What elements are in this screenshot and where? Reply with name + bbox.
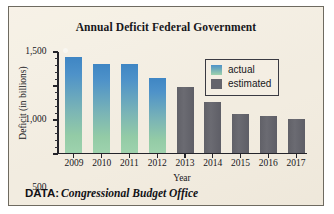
bar-2011 xyxy=(121,64,138,152)
y-minor-tick xyxy=(55,99,58,100)
bar-2016 xyxy=(260,116,277,152)
chart-title: Annual Deficit Federal Government xyxy=(9,21,323,33)
chart-screenshot: Annual Deficit Federal Government Defici… xyxy=(0,0,334,214)
figure-frame: Annual Deficit Federal Government Defici… xyxy=(8,6,324,206)
y-tick-1000: 1,000 xyxy=(53,85,58,87)
x-tick-label-2010: 2010 xyxy=(92,158,111,168)
chart-legend: actual estimated xyxy=(205,59,279,96)
y-tick-label-1500: 1,500 xyxy=(25,46,46,56)
data-source-label: DATA: xyxy=(25,187,59,199)
y-minor-tick xyxy=(55,72,58,73)
y-minor-tick xyxy=(55,106,58,107)
y-minor-tick xyxy=(55,133,58,134)
legend-label-estimated: estimated xyxy=(228,79,271,89)
y-minor-tick xyxy=(55,58,58,59)
legend-item-estimated: estimated xyxy=(211,77,271,91)
y-tick-label-1000: 1,000 xyxy=(25,114,46,124)
x-axis-line xyxy=(57,153,307,155)
x-tick-label-2013: 2013 xyxy=(176,158,195,168)
bar-2013 xyxy=(177,87,194,152)
legend-swatch-actual-icon xyxy=(211,65,222,75)
y-minor-tick xyxy=(55,92,58,93)
y-tick-500: 500 xyxy=(53,119,58,121)
x-tick-label-2009: 2009 xyxy=(64,158,83,168)
y-tick-1500: 1,500 xyxy=(53,51,58,53)
x-tick-label-2011: 2011 xyxy=(120,158,139,168)
data-source-caption: DATA:Congressional Budget Office xyxy=(25,187,198,199)
y-axis-title: Deficit (in billions) xyxy=(18,53,28,153)
legend-label-actual: actual xyxy=(228,65,255,75)
x-tick-label-2016: 2016 xyxy=(259,158,278,168)
bar-2014 xyxy=(204,102,221,152)
bar-2015 xyxy=(232,114,249,153)
x-tick-label-2015: 2015 xyxy=(231,158,250,168)
x-tick-label-2017: 2017 xyxy=(287,158,306,168)
bar-2012 xyxy=(149,78,166,152)
legend-item-actual: actual xyxy=(211,63,271,77)
y-axis-line xyxy=(57,52,59,154)
y-minor-tick xyxy=(55,79,58,80)
y-minor-tick xyxy=(55,113,58,114)
y-minor-tick xyxy=(55,126,58,127)
y-tick-0: 0 xyxy=(53,153,58,155)
legend-swatch-estimated-icon xyxy=(211,79,222,89)
y-minor-tick xyxy=(55,140,58,141)
data-source-value: Congressional Budget Office xyxy=(61,187,198,199)
x-tick-label-2014: 2014 xyxy=(203,158,222,168)
bar-2017 xyxy=(288,119,305,153)
bar-2009 xyxy=(65,57,82,153)
y-minor-tick xyxy=(55,147,58,148)
y-minor-tick xyxy=(55,65,58,66)
bar-2010 xyxy=(93,64,110,152)
x-tick-label-2012: 2012 xyxy=(148,158,167,168)
x-axis-title: Year xyxy=(57,173,307,183)
